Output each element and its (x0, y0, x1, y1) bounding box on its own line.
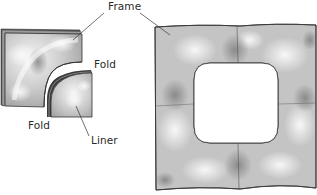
leader-frame-left (73, 13, 104, 40)
liner-piece (47, 70, 92, 117)
label-fold-lower: Fold (28, 120, 50, 131)
frame-diagram (0, 0, 317, 195)
label-fold-upper: Fold (94, 59, 116, 70)
label-liner: Liner (91, 135, 118, 146)
assembled-frame (155, 24, 317, 190)
label-frame: Frame (108, 1, 141, 12)
